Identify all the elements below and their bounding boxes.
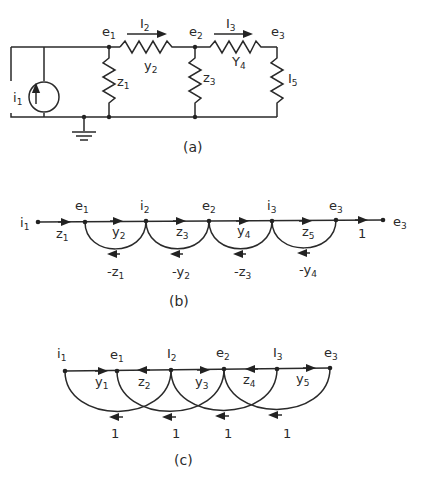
- sfg-b-feedback-z3: -z3: [234, 264, 251, 281]
- ground-icon: [72, 117, 96, 140]
- sfg-b-node-i1: [36, 220, 41, 225]
- figure-canvas: i1 I2 y2 I3 Y4 z1 z3 I5 e1 e2 e3: [0, 0, 427, 494]
- sfg-b-label-i1: i1: [20, 215, 29, 232]
- node-bottom-1: [107, 115, 111, 119]
- panel-b-signal-flow-graph: i1 e1 i2 e2 i3 e3 e3 z1 y2 z3 y4 z5 1 -z…: [20, 198, 407, 309]
- node-bottom-2: [193, 115, 197, 119]
- sfg-b-label-e3: e3: [329, 198, 343, 215]
- sfg-c-loop-label-1: 1: [111, 426, 119, 441]
- sfg-b-feedback-z1: -z1: [107, 264, 124, 281]
- shunt-resistor-z3: [189, 47, 201, 117]
- sfg-b-label-i2: i2: [140, 198, 149, 215]
- sfg-b-label-e2: e2: [202, 198, 216, 215]
- node-label-e3: e3: [271, 24, 285, 41]
- shunt-resistor-I5: [271, 47, 283, 117]
- sfg-b-node-e2: [207, 219, 212, 224]
- sfg-c-loop-label-4: 1: [283, 426, 291, 441]
- caption-a: (a): [183, 139, 203, 155]
- sfg-c-branch-z4: z4: [243, 372, 256, 389]
- sfg-b-branch-y4: y4: [237, 223, 251, 240]
- sfg-b-label-e1: e1: [75, 198, 89, 215]
- sfg-c-loop-label-3: 1: [224, 426, 232, 441]
- sfg-b-branch-z1: z1: [56, 226, 69, 243]
- sfg-c-label-e2: e2: [216, 345, 230, 362]
- series-resistor-Y4: [195, 41, 277, 53]
- source-label: i1: [13, 90, 22, 107]
- current-label-I2: I2: [140, 16, 150, 33]
- sfg-c-branch-y5: y5: [296, 371, 309, 388]
- sfg-c-node-e3: [328, 366, 333, 371]
- sfg-b-branch-z5: z5: [302, 224, 315, 241]
- sfg-b-node-e3-out: [381, 218, 386, 223]
- current-label-I3: I3: [226, 16, 236, 33]
- sfg-b-branch-z3: z3: [176, 224, 189, 241]
- caption-b: (b): [169, 293, 189, 309]
- sfg-c-node-i1: [63, 369, 68, 374]
- sfg-b-label-e3-out: e3: [393, 214, 407, 231]
- sfg-b-branch-1: 1: [358, 226, 366, 241]
- sfg-b-branch-y2: y2: [112, 224, 125, 241]
- sfg-c-label-e1: e1: [110, 347, 124, 364]
- sfg-c-label-i1: i1: [57, 346, 66, 363]
- series-label-Y4: Y4: [231, 54, 246, 71]
- sfg-b-feedback-y4: -y4: [299, 262, 317, 279]
- sfg-c-node-I2: [169, 368, 174, 373]
- sfg-b-node-i3: [270, 219, 275, 224]
- node-label-e1: e1: [102, 24, 116, 41]
- sfg-b-node-e3: [334, 218, 339, 223]
- sfg-c-node-I3: [275, 367, 280, 372]
- node-label-e2: e2: [189, 24, 203, 41]
- sfg-c-branch-z2: z2: [138, 374, 151, 391]
- node-e1: [107, 45, 111, 49]
- series-label-y2: y2: [144, 58, 157, 75]
- caption-c: (c): [174, 452, 193, 468]
- sfg-b-feedback-y2: -y2: [172, 264, 190, 281]
- shunt-label-z3: z3: [203, 70, 216, 87]
- sfg-b-node-i2: [144, 219, 149, 224]
- sfg-c-label-e3: e3: [324, 345, 338, 362]
- series-resistor-y2: [120, 41, 195, 53]
- sfg-c-label-I2: I2: [167, 346, 177, 363]
- sfg-c-branch-y3: y3: [195, 374, 208, 391]
- panel-a-circuit: i1 I2 y2 I3 Y4 z1 z3 I5 e1 e2 e3: [11, 16, 298, 155]
- sfg-b-node-e1: [83, 220, 88, 225]
- shunt-resistor-z1: [103, 47, 115, 117]
- sfg-c-node-e1: [115, 369, 120, 374]
- sfg-b-label-i3: i3: [267, 198, 276, 215]
- shunt-label-z1: z1: [117, 74, 130, 91]
- current-source-icon: [29, 82, 59, 112]
- shunt-label-I5: I5: [288, 71, 298, 88]
- sfg-c-branch-y1: y1: [95, 374, 108, 391]
- sfg-c-label-I3: I3: [273, 345, 283, 362]
- panel-c-signal-flow-graph: i1 e1 I2 e2 I3 e3 y1 z2 y3 z4 y5 1 1 1 1…: [57, 345, 338, 468]
- sfg-c-loop-label-2: 1: [172, 426, 180, 441]
- sfg-c-node-e2: [222, 367, 227, 372]
- node-e2: [193, 45, 197, 49]
